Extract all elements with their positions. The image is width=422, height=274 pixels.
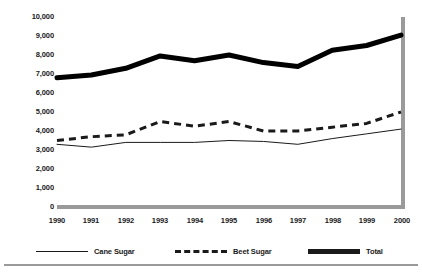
legend-item-total: Total [308, 243, 383, 259]
x-axis-tick-label: 1999 [350, 216, 384, 225]
x-axis-tick-label: 1992 [109, 216, 143, 225]
series-line-total [57, 35, 401, 78]
sugar-production-line-chart: 10,000 9,000 8,000 7,000 6,000 5,000 4,0… [0, 0, 422, 274]
plot-area [0, 0, 422, 274]
x-axis-tick-label: 1994 [178, 216, 212, 225]
legend-item-beet-sugar: Beet Sugar [175, 243, 272, 259]
legend-label: Beet Sugar [233, 247, 272, 256]
x-axis-tick-label: 1998 [316, 216, 350, 225]
x-axis-tick-label: 1990 [40, 216, 74, 225]
plot-right-border [401, 17, 405, 209]
legend-label: Total [366, 247, 383, 256]
x-axis: 1990 1991 1992 1993 1994 1995 1996 1997 … [0, 216, 422, 228]
legend-item-cane-sugar: Cane Sugar [36, 243, 135, 259]
x-axis-tick-label: 1997 [281, 216, 315, 225]
x-axis-tick-label: 1995 [212, 216, 246, 225]
x-axis-baseline [57, 205, 405, 209]
x-axis-tick-label: 1991 [74, 216, 108, 225]
legend-label: Cane Sugar [94, 247, 135, 256]
series-line-cane-sugar [57, 129, 401, 147]
dashed-line-swatch-icon [175, 250, 227, 253]
chart-legend: Cane Sugar Beet Sugar Total [0, 243, 422, 259]
x-axis-tick-label: 1993 [143, 216, 177, 225]
x-axis-tick-label: 2000 [385, 216, 419, 225]
thin-line-swatch-icon [36, 251, 88, 252]
x-axis-tick-label: 1996 [247, 216, 281, 225]
legend-divider [4, 264, 418, 266]
thick-line-swatch-icon [308, 249, 360, 254]
